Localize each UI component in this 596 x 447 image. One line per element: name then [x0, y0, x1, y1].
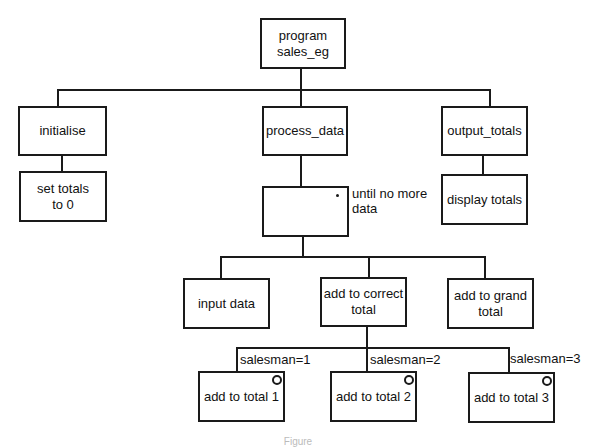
initialise-label: initialise	[39, 123, 85, 139]
iteration-condition-line2: data	[352, 201, 427, 216]
set-totals-line1: set totals	[37, 181, 89, 197]
box-program-sales-eg: program sales_eg	[260, 18, 346, 69]
condition-salesman-1: salesman=1	[240, 352, 310, 367]
add-total-3-label: add to total 3	[474, 390, 549, 406]
box-display-totals: display totals	[441, 174, 528, 225]
selection-circle-icon	[404, 375, 414, 385]
add-total-2-label: add to total 2	[336, 389, 411, 405]
connector-output-totals	[489, 89, 491, 106]
iteration-condition-line1: until no more	[352, 186, 427, 201]
connector-initialise	[57, 89, 59, 106]
set-totals-line2: to 0	[37, 197, 89, 213]
connector-level1-bar	[57, 89, 491, 91]
connector-correct-down	[366, 326, 368, 348]
add-total-1-label: add to total 1	[204, 389, 279, 405]
connector-level4-bar	[236, 347, 510, 349]
input-data-label: input data	[198, 296, 255, 312]
box-output-totals: output_totals	[441, 106, 528, 156]
condition-salesman-3: salesman=3	[510, 351, 580, 366]
iteration-asterisk-icon	[336, 194, 339, 197]
box-add-to-correct-total: add to correct total	[320, 277, 407, 327]
figure-caption: Figure	[0, 436, 596, 447]
add-grand-line1: add to grand	[454, 288, 527, 304]
connector-iteration-down	[302, 236, 304, 257]
connector-process-data	[300, 89, 302, 106]
box-process-data: process_data	[262, 106, 348, 156]
connector-root-down	[300, 68, 302, 90]
display-totals-label: display totals	[447, 192, 522, 208]
connector-process-iteration	[300, 155, 302, 186]
root-label-line1: program	[277, 28, 329, 44]
process-data-label: process_data	[266, 123, 344, 139]
selection-circle-icon	[542, 376, 552, 386]
box-add-to-grand-total: add to grand total	[447, 278, 534, 329]
box-input-data: input data	[183, 278, 270, 329]
connector-total-1	[236, 347, 238, 371]
output-totals-label: output_totals	[447, 123, 521, 139]
root-label-line2: sales_eg	[277, 44, 329, 60]
connector-add-correct	[368, 256, 370, 277]
box-initialise: initialise	[18, 106, 107, 156]
selection-circle-icon	[272, 375, 282, 385]
box-set-totals: set totals to 0	[19, 171, 107, 222]
connector-initialise-child	[61, 155, 63, 171]
connector-add-grand	[484, 256, 486, 278]
connector-total-2	[366, 347, 368, 371]
add-grand-line2: total	[454, 304, 527, 320]
iteration-condition: until no more data	[352, 186, 427, 216]
condition-salesman-2: salesman=2	[370, 352, 440, 367]
connector-input-data	[220, 256, 222, 278]
connector-level3-bar	[220, 256, 486, 258]
add-correct-line2: total	[324, 302, 404, 318]
add-correct-line1: add to correct	[324, 286, 404, 302]
connector-output-child	[482, 155, 484, 174]
